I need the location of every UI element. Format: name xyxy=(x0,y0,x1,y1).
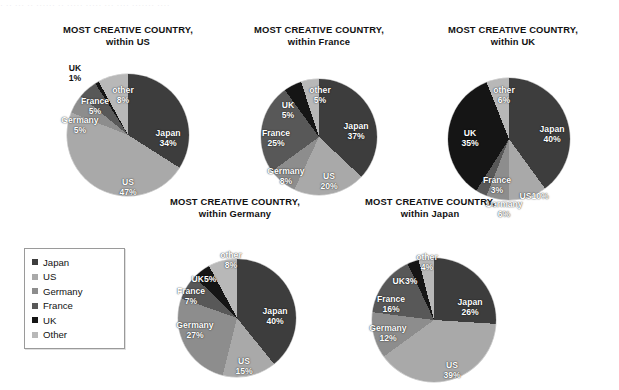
legend-swatch-icon xyxy=(32,288,38,294)
chart-within-germany: MOST CREATIVE COUNTRY,within GermanyJapa… xyxy=(140,196,330,381)
legend-item-uk: UK xyxy=(32,313,114,328)
chart-within-japan: MOST CREATIVE COUNTRY,within JapanJapan2… xyxy=(330,196,530,386)
chart-subtitle: within US xyxy=(28,36,228,48)
slice-label-value: 1% xyxy=(69,74,81,84)
legend-label: Other xyxy=(43,329,67,340)
legend-label: UK xyxy=(43,315,56,326)
chart-title: MOST CREATIVE COUNTRY, xyxy=(140,196,330,208)
legend-label: France xyxy=(43,300,73,311)
legend-item-us: US xyxy=(32,270,114,285)
chart-within-us: MOST CREATIVE COUNTRY,within USJapan34%U… xyxy=(28,24,228,200)
chart-subtitle: within Japan xyxy=(330,208,530,220)
chart-within-uk: MOST CREATIVE COUNTRY,within UKJapan40%U… xyxy=(413,24,613,204)
slice-label-name: UK xyxy=(69,63,81,73)
legend-item-germany: Germany xyxy=(32,284,114,299)
legend-item-france: France xyxy=(32,299,114,314)
pie xyxy=(372,258,496,382)
pie xyxy=(448,78,570,200)
pie-area: Japan26%US39%Germany12%France16%UK3%othe… xyxy=(330,219,530,386)
legend-swatch-icon xyxy=(32,303,38,309)
chart-title: MOST CREATIVE COUNTRY, xyxy=(224,24,414,36)
pie-area: Japan34%US47%Germany5%France5%UK1%other8… xyxy=(28,47,228,200)
legend-swatch-icon xyxy=(32,317,38,323)
pie xyxy=(261,79,377,195)
scan-top-text-strip: · ·· ··· ·· ······ ·· ····· ····· ··· ··… xyxy=(0,0,619,12)
chart-within-france: MOST CREATIVE COUNTRY,within FranceJapan… xyxy=(224,24,414,199)
legend-label: US xyxy=(43,271,56,282)
pie xyxy=(67,74,189,196)
chart-title: MOST CREATIVE COUNTRY, xyxy=(330,196,530,208)
pie-area: Japan40%US10%Germany6%France3%UK35%other… xyxy=(413,47,613,204)
legend-label: Germany xyxy=(43,286,82,297)
legend-swatch-icon xyxy=(32,332,38,338)
pie-area: Japan37%US20%Germany8%France25%UK5%other… xyxy=(224,47,414,199)
legend-swatch-icon xyxy=(32,259,38,265)
legend-item-other: Other xyxy=(32,328,114,343)
legend-swatch-icon xyxy=(32,274,38,280)
legend-label: Japan xyxy=(43,257,69,268)
chart-subtitle: within France xyxy=(224,36,414,48)
pie-area: Japan40%US15%Germany27%France7%UK5%other… xyxy=(140,219,330,381)
chart-legend: JapanUSGermanyFranceUKOther xyxy=(24,248,125,349)
chart-title: MOST CREATIVE COUNTRY, xyxy=(28,24,228,36)
pie xyxy=(178,259,296,377)
chart-title: MOST CREATIVE COUNTRY, xyxy=(413,24,613,36)
chart-subtitle: within Germany xyxy=(140,208,330,220)
chart-subtitle: within UK xyxy=(413,36,613,48)
legend-item-japan: Japan xyxy=(32,255,114,270)
slice-label-uk: UK1% xyxy=(69,64,81,83)
